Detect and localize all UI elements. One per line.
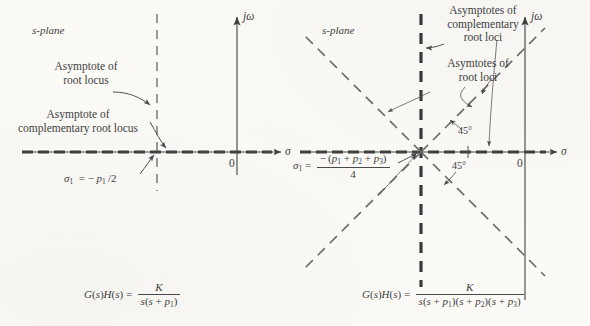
left-sigma1-equation: σ1 = − p1 /2 (64, 172, 117, 187)
leader-arrow-asymptote-root-locus (113, 92, 150, 105)
left-annotation-asymptote-complementary: Asymptote of complementary root locus (2, 108, 154, 135)
leader-arrow-angle-lower (444, 172, 456, 185)
leader-arrow-diagonal-nw (388, 92, 430, 112)
left-equation-fraction: K s(s + p1) (138, 281, 181, 310)
right-annotation-complementary-root-loci: Asymptotes of complementary root loci (425, 4, 541, 45)
leader-arrow-complementary-real-axis (489, 40, 497, 146)
left-equation-denominator: s(s + p1) (138, 294, 181, 310)
right-asymptote-diagonal-ne (421, 28, 545, 152)
right-annotation-comp-line2: complementary (425, 18, 541, 32)
left-jomega-axis-label: jω (243, 10, 254, 24)
leader-arrow-asymtotes-root-loci (461, 87, 472, 107)
left-transfer-function-equation: G(s)H(s) = K s(s + p1) (84, 281, 180, 310)
left-s-plane-label: s-plane (32, 24, 64, 37)
left-origin-label: 0 (229, 157, 235, 171)
left-panel-axes (22, 14, 281, 191)
right-equation-fraction: K s(s + p1)(s + p2)(s + p3) (416, 281, 524, 310)
left-annotation-line2: root locus (26, 74, 146, 88)
left-s-plane-label-text: s-plane (32, 24, 64, 36)
right-transfer-function-equation: G(s)H(s) = K s(s + p1)(s + p2)(s + p3) (362, 281, 524, 310)
right-asymptote-diagonal-se (421, 152, 545, 276)
left-sigma-axis-label: σ (285, 145, 291, 159)
left-annotation-comp-line2: complementary root locus (2, 122, 154, 136)
right-asymptote-diagonal-nw (305, 36, 421, 152)
right-annotation-comp-line3: root loci (425, 31, 541, 45)
right-equation-numerator: K (416, 281, 524, 294)
leader-arrow-sigma1-left (140, 155, 154, 174)
right-sigma1-equation: σ1 = − (p1 + p2 + p3) 4 (293, 152, 390, 181)
right-sigma1-fraction: − (p1 + p2 + p3) 4 (317, 152, 390, 181)
right-jomega-axis-label: jω (531, 10, 542, 24)
root-locus-asymptotes-figure: s-plane Asymptote of root locus Asymptot… (0, 0, 590, 326)
right-s-plane-label-text: s-plane (322, 24, 354, 36)
right-angle-label-lower: 45° (452, 160, 466, 172)
right-angle-label-upper: 45° (458, 125, 472, 137)
right-annotation-rl-line1: Asymtotes of (426, 57, 530, 71)
left-annotation-line1: Asymptote of (26, 60, 146, 74)
right-annotation-comp-line1: Asymptotes of (425, 4, 541, 18)
right-origin-label: 0 (517, 157, 523, 171)
right-equation-denominator: s(s + p1)(s + p2)(s + p3) (416, 294, 524, 310)
left-equation-lhs: G (84, 288, 92, 300)
right-annotation-asymtotes-root-loci: Asymtotes of root loci (426, 57, 530, 84)
right-s-plane-label: s-plane (322, 24, 354, 37)
right-sigma1-denominator: 4 (317, 167, 390, 181)
right-sigma1-numerator: − (p1 + p2 + p3) (317, 152, 390, 167)
left-annotation-comp-line1: Asymptote of (2, 108, 154, 122)
left-annotation-asymptote-root-locus: Asymptote of root locus (26, 60, 146, 87)
right-annotation-rl-line2: root loci (426, 71, 530, 85)
right-sigma-axis-label: σ (561, 145, 567, 159)
left-equation-numerator: K (138, 281, 181, 294)
